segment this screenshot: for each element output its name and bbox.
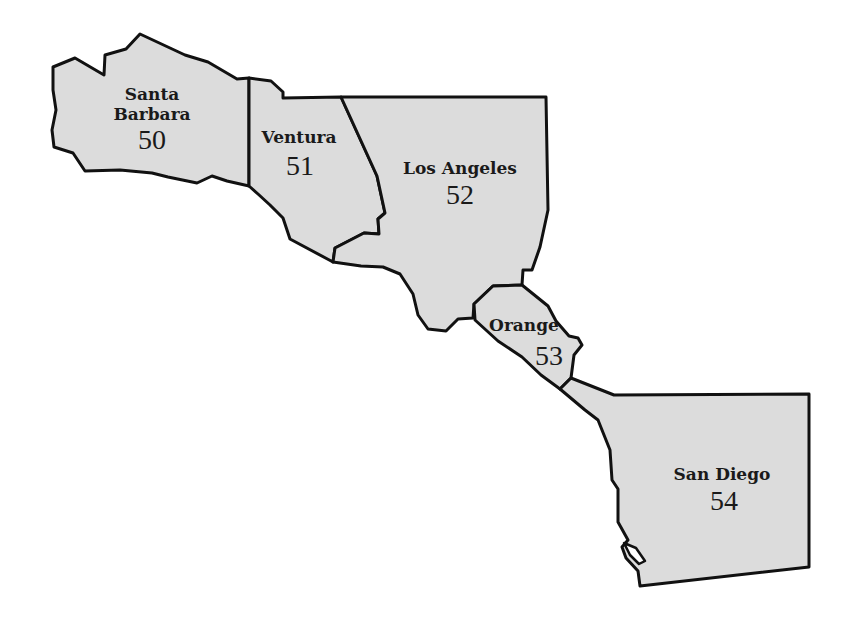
label-los-angeles: Los Angeles xyxy=(403,158,517,178)
county-orange[interactable] xyxy=(474,285,582,389)
number-san-diego: 54 xyxy=(710,485,738,516)
label-orange: Orange xyxy=(489,315,559,335)
number-ventura: 51 xyxy=(286,150,314,181)
label-ventura: Ventura xyxy=(261,127,337,147)
number-los-angeles: 52 xyxy=(446,179,474,210)
label-san-diego: San Diego xyxy=(674,464,771,484)
number-orange: 53 xyxy=(535,340,563,371)
number-santa-barbara: 50 xyxy=(138,124,166,155)
label-santa-barbara-line1: Santa xyxy=(125,84,180,104)
county-map: Santa Barbara 50 Ventura 51 Los Angeles … xyxy=(0,0,863,639)
label-santa-barbara-line2: Barbara xyxy=(113,104,190,124)
